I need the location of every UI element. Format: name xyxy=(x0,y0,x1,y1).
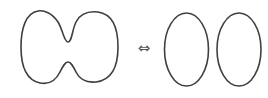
equivalence-arrow-icon: ⇔ xyxy=(133,38,155,58)
right-oval xyxy=(217,13,261,86)
left-oval xyxy=(165,13,209,86)
peanut-curve xyxy=(21,11,118,84)
